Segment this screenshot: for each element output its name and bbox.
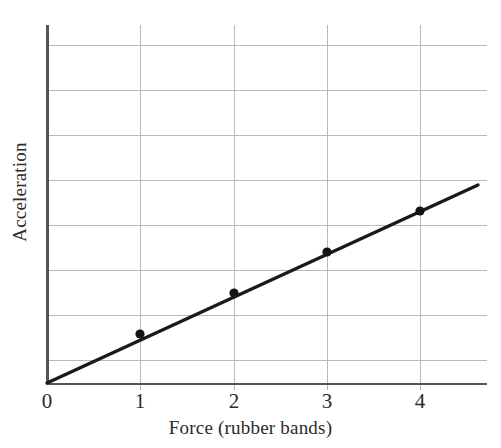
data-point-marker xyxy=(229,288,238,297)
x-tick-label-2: 2 xyxy=(214,388,254,414)
data-point-marker xyxy=(322,247,331,256)
chart-figure: Acceleration 0 1 2 3 4 Force (rubber ban… xyxy=(0,0,501,448)
data-line-series-1 xyxy=(47,185,478,383)
x-axis-title: Force (rubber bands) xyxy=(0,417,501,439)
x-tick-label-0: 0 xyxy=(27,388,67,414)
data-point-markers xyxy=(135,206,424,338)
data-point-marker xyxy=(135,329,144,338)
x-tick-label-1: 1 xyxy=(120,388,160,414)
x-tick-label-3: 3 xyxy=(307,388,347,414)
chart-plot-area xyxy=(0,0,501,448)
vertical-gridlines xyxy=(141,25,421,390)
data-point-marker xyxy=(415,206,424,215)
x-tick-label-4: 4 xyxy=(400,388,440,414)
